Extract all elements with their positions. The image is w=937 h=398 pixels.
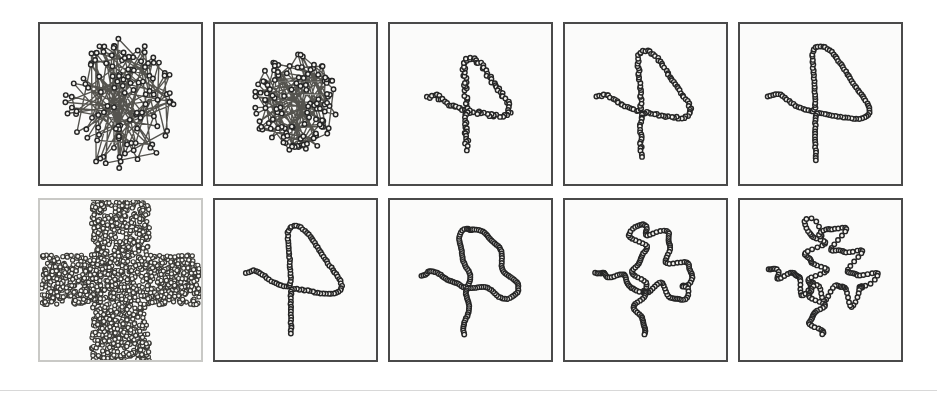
- panel-bottom-iteration-2: [388, 198, 553, 362]
- panel-grid: [38, 22, 902, 372]
- panel-plot-bottom-target-cloud: [40, 200, 201, 360]
- panel-plot-bottom-iteration-1: [215, 200, 376, 360]
- curve-polyline: [768, 46, 870, 160]
- panel-plot-bottom-iteration-4: [740, 200, 901, 360]
- panel-plot-top-iteration-3: [390, 24, 551, 184]
- panel-plot-top-iteration-2: [215, 24, 376, 184]
- panel-plot-top-iteration-5: [740, 24, 901, 184]
- panel-top-iteration-5: [738, 22, 903, 186]
- panel-top-iteration-2: [213, 22, 378, 186]
- curve-polyline: [65, 39, 173, 168]
- node-markers: [766, 216, 880, 336]
- node-markers: [419, 226, 520, 336]
- figure-bottom-rule: [0, 390, 937, 391]
- panel-top-iteration-4: [563, 22, 728, 186]
- figure-root: [0, 0, 937, 398]
- node-markers: [40, 200, 201, 360]
- node-markers: [594, 48, 693, 159]
- node-markers: [425, 55, 513, 152]
- node-markers: [765, 44, 871, 162]
- panel-bottom-iteration-4: [738, 198, 903, 362]
- panel-plot-bottom-iteration-3: [565, 200, 726, 360]
- panel-bottom-iteration-3: [563, 198, 728, 362]
- node-markers: [244, 223, 345, 335]
- panel-plot-bottom-iteration-2: [390, 200, 551, 360]
- panel-plot-top-iteration-4: [565, 24, 726, 184]
- panel-bottom-target-cloud: [38, 198, 203, 362]
- panel-plot-top-iteration-1: [40, 24, 201, 184]
- panel-bottom-iteration-1: [213, 198, 378, 362]
- panel-top-iteration-1: [38, 22, 203, 186]
- panel-top-iteration-3: [388, 22, 553, 186]
- node-markers: [593, 222, 695, 337]
